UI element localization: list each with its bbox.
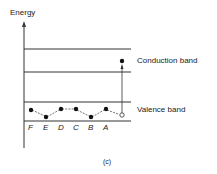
figure-caption: (c) (103, 158, 111, 165)
conduction-electron (120, 59, 124, 63)
site-label-D: D (58, 123, 64, 132)
site-label-C: C (73, 123, 79, 132)
valence-electron-F (29, 108, 33, 112)
valence-electron-B (89, 115, 93, 119)
excitation-arrowhead-icon (121, 64, 124, 69)
site-label-F: F (28, 123, 33, 132)
hole (120, 113, 124, 117)
valence-electron-E (44, 115, 48, 119)
axis-arrowhead-icon (22, 21, 26, 27)
site-label-A: A (103, 123, 108, 132)
band-diagram (0, 0, 217, 174)
valence-electron-D (59, 107, 63, 111)
energy-axis-label: Energy (10, 8, 35, 17)
valence-electron-C (74, 107, 78, 111)
site-label-B: B (88, 123, 93, 132)
valence-electron-A (104, 107, 108, 111)
conduction-band-label: Conduction band (137, 56, 198, 65)
site-label-E: E (43, 123, 48, 132)
valence-band-label: Valence band (137, 105, 185, 114)
